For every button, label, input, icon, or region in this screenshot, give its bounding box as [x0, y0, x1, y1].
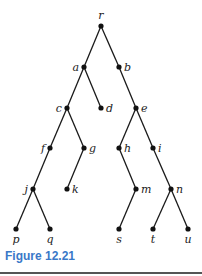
edge-r-b [101, 26, 119, 67]
node-label-m: m [141, 183, 151, 196]
node-label-c: c [56, 102, 62, 115]
node-c [64, 105, 69, 110]
node-label-e: e [141, 102, 148, 115]
edge-a-d [84, 67, 101, 108]
node-t [150, 226, 155, 231]
tree-nodes [13, 23, 190, 231]
bottom-divider [0, 272, 202, 274]
node-label-r: r [98, 9, 104, 22]
node-label-b: b [124, 61, 131, 74]
node-h [116, 145, 121, 150]
node-label-j: j [22, 183, 29, 196]
edge-r-a [84, 26, 101, 67]
edge-i-n [153, 148, 171, 189]
node-label-h: h [124, 142, 131, 155]
edge-j-q [33, 189, 50, 229]
node-label-d: d [106, 102, 113, 115]
node-r [98, 23, 103, 28]
node-g [81, 145, 86, 150]
edge-c-g [67, 108, 84, 148]
node-label-u: u [184, 233, 191, 246]
node-u [185, 226, 190, 231]
node-label-n: n [176, 183, 183, 196]
node-p [13, 226, 18, 231]
node-m [133, 186, 138, 191]
node-n [168, 186, 173, 191]
node-j [30, 186, 35, 191]
node-label-t: t [151, 233, 156, 246]
node-f [47, 145, 52, 150]
node-label-g: g [89, 142, 96, 155]
node-k [64, 186, 69, 191]
node-a [81, 64, 86, 69]
node-e [133, 105, 138, 110]
node-label-k: k [72, 183, 79, 196]
node-label-i: i [158, 142, 162, 155]
tree-labels: rabcdefghijkmnpqstu [12, 9, 191, 246]
node-b [116, 64, 121, 69]
node-label-s: s [116, 233, 122, 246]
tree-diagram: rabcdefghijkmnpqstu [0, 0, 202, 276]
node-d [98, 105, 103, 110]
node-q [47, 226, 52, 231]
node-label-f: f [40, 142, 47, 155]
figure-caption: Figure 12.21 [5, 249, 75, 263]
edge-m-s [119, 189, 136, 229]
node-label-p: p [12, 233, 19, 246]
node-i [150, 145, 155, 150]
node-label-a: a [72, 61, 79, 74]
node-s [116, 226, 121, 231]
node-label-q: q [46, 233, 53, 246]
tree-edges [16, 26, 188, 229]
edge-n-t [153, 189, 171, 229]
